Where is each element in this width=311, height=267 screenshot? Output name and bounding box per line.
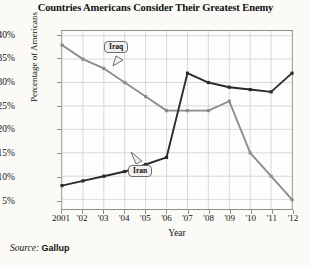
data-point-iran (186, 72, 189, 75)
data-point-iran (249, 88, 252, 91)
x-axis-label: Year (61, 228, 293, 238)
data-point-iran (102, 175, 105, 178)
plot-svg (62, 31, 292, 209)
data-point-iraq (270, 175, 273, 178)
data-point-iran (165, 156, 168, 159)
y-tick-label: 20% (0, 124, 15, 134)
y-tick-label: 10% (0, 172, 15, 182)
y-tick-label: 30% (0, 77, 15, 87)
y-tick-label: 25% (0, 101, 15, 111)
x-tick-label: '12 (273, 213, 311, 223)
source-label: Source: (10, 243, 39, 253)
callout-iran: Iran (128, 165, 152, 177)
data-point-iraq (186, 109, 189, 112)
data-point-iran (207, 81, 210, 84)
y-tick-label: 5% (0, 196, 15, 206)
data-point-iraq (165, 109, 168, 112)
plot-area (61, 30, 293, 210)
data-point-iraq (102, 67, 105, 70)
data-point-iraq (207, 109, 210, 112)
data-point-iraq (228, 100, 231, 103)
data-point-iran (123, 170, 126, 173)
y-axis-label: Percentage of Americans (29, 0, 39, 137)
y-tick-label: 35% (0, 53, 15, 63)
y-tick-label: 40% (0, 30, 15, 40)
chart-root: Countries Americans Consider Their Great… (0, 0, 311, 267)
data-point-iraq (290, 198, 293, 201)
data-point-iraq (123, 81, 126, 84)
chart-title: Countries Americans Consider Their Great… (0, 2, 311, 13)
data-point-iraq (249, 151, 252, 154)
source-value: Gallup (42, 243, 70, 253)
source-note: Source: Gallup (10, 243, 70, 253)
y-tick-label: 15% (0, 148, 15, 158)
data-point-iran (60, 184, 63, 187)
data-point-iraq (60, 43, 63, 46)
data-point-iran (228, 86, 231, 89)
data-point-iraq (81, 58, 84, 61)
data-point-iran (270, 90, 273, 93)
callout-iraq: Iraq (104, 41, 128, 53)
data-point-iraq (144, 95, 147, 98)
x-tick-mark (293, 210, 294, 214)
data-point-iran (290, 72, 293, 75)
data-point-iran (81, 179, 84, 182)
